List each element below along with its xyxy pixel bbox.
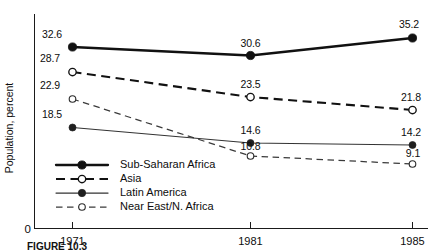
label-latin-america-1971: 18.5 — [42, 108, 62, 120]
label-asia-1985: 21.8 — [401, 91, 421, 103]
label-near-east-1981: 10.8 — [240, 140, 260, 152]
x-tick-label-1981: 1981 — [238, 235, 262, 247]
series-asia — [69, 68, 416, 113]
data-point-near-east-1981 — [247, 153, 254, 160]
data-point-near-east-1971 — [69, 96, 76, 103]
legend-item-sub-saharan-africa[interactable]: Sub-Saharan Africa — [56, 158, 216, 170]
legend-item-asia[interactable]: Asia — [56, 172, 142, 184]
data-point-asia-1971 — [69, 68, 76, 75]
data-point-asia-1981 — [247, 93, 254, 100]
label-near-east-1971: 22.9 — [40, 79, 60, 91]
line-chart: 0 1971 1981 1985 Population, percent — [0, 0, 434, 251]
data-point-latin-america-1971 — [69, 124, 76, 131]
legend-label-near-east-n-africa: Near East/N. Africa — [120, 200, 214, 212]
label-latin-america-1985: 14.2 — [401, 126, 421, 138]
figure-container: 0 1971 1981 1985 Population, percent — [0, 0, 434, 251]
data-point-sub-saharan-1981 — [246, 51, 254, 59]
data-point-near-east-1985 — [409, 161, 416, 168]
x-tick-label-1985: 1985 — [400, 235, 424, 247]
point-value-labels: 32.6 30.6 35.2 28.7 23.5 21.8 22.9 10.8 … — [40, 18, 421, 159]
y-axis-zero-label: 0 — [25, 223, 31, 235]
y-axis-title: Population, percent — [3, 83, 15, 174]
legend-item-latin-america[interactable]: Latin America — [56, 186, 188, 198]
figure-caption: FIGURE 10.3 — [27, 241, 87, 251]
legend: Sub-Saharan Africa Asia Latin America Ne… — [56, 158, 216, 212]
legend-label-asia: Asia — [120, 172, 142, 184]
legend-swatch-marker-near-east-n-africa — [79, 204, 86, 211]
legend-swatch-marker-latin-america — [78, 189, 85, 196]
data-point-sub-saharan-1985 — [408, 34, 416, 42]
legend-label-sub-saharan-africa: Sub-Saharan Africa — [120, 158, 216, 170]
data-point-sub-saharan-1971 — [68, 43, 76, 51]
label-near-east-1985: 9.1 — [406, 147, 421, 159]
legend-swatch-marker-asia — [78, 175, 85, 182]
data-point-asia-1985 — [409, 106, 416, 113]
label-sub-saharan-1985: 35.2 — [399, 18, 419, 30]
axes-group — [35, 14, 429, 229]
label-asia-1971: 28.7 — [40, 52, 60, 64]
axis-lines — [35, 14, 429, 229]
legend-swatch-marker-sub-saharan-africa — [78, 161, 86, 169]
label-latin-america-1981: 14.6 — [240, 124, 260, 136]
label-sub-saharan-1981: 30.6 — [240, 37, 260, 49]
legend-item-near-east-n-africa[interactable]: Near East/N. Africa — [56, 200, 214, 212]
label-asia-1981: 23.5 — [240, 78, 260, 90]
label-sub-saharan-1971: 32.6 — [42, 28, 62, 40]
legend-label-latin-america: Latin America — [120, 186, 188, 198]
